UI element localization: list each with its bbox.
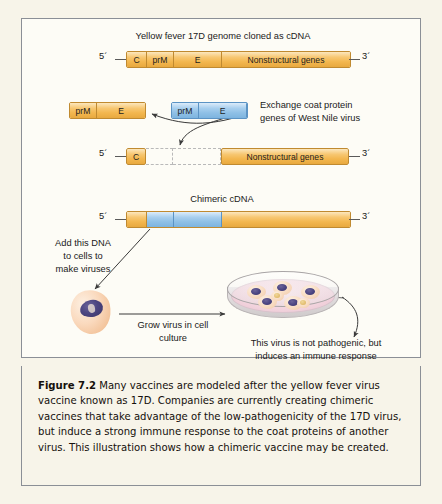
exchange-note-line2: genes of West Nile virus	[260, 112, 360, 124]
dish-cell	[301, 285, 320, 299]
genome-bar: C prM E Nonstructural genes	[126, 51, 351, 68]
dish-cell-nucleus	[262, 298, 272, 305]
top-title: Yellow fever 17D genome cloned as cDNA	[100, 30, 346, 42]
grow-line1: Grow virus in cell	[119, 319, 227, 331]
three-prime-gapped: 3´	[362, 148, 370, 158]
yf-segment-prm: prM	[70, 103, 97, 118]
gapped-segment-nonstructural: Nonstructural genes	[221, 148, 349, 165]
transfected-cell	[69, 287, 115, 337]
add-dna-line3: make viruses	[29, 263, 137, 275]
five-prime-tick-genome	[115, 59, 126, 60]
arrow-dish-callout	[342, 297, 358, 337]
wn-segment-prm: prM	[172, 103, 199, 118]
gapped-segment-deleted-e	[173, 148, 221, 165]
dish-cell-nucleus	[277, 284, 287, 291]
wn-fragment-bar: prM E	[171, 102, 248, 119]
three-prime-genome: 3´	[362, 51, 370, 61]
add-dna-line1: Add this DNA	[29, 237, 137, 249]
chimeric-segment-prm	[147, 212, 174, 227]
five-prime-chimeric: 5´	[99, 211, 107, 221]
five-prime-gapped: 5´	[99, 148, 107, 158]
five-prime-tick-chimeric	[115, 219, 126, 220]
diagram-panel: Yellow fever 17D genome cloned as cDNA 5…	[21, 18, 421, 358]
caption-paragraph: Figure 7.2 Many vaccines are modeled aft…	[38, 378, 404, 455]
dish-cell-nucleus	[305, 288, 315, 295]
wn-segment-e: E	[199, 103, 247, 118]
five-prime-tick-gapped	[115, 156, 126, 157]
yf-fragment-bar: prM E	[69, 102, 146, 119]
five-prime-genome: 5´	[99, 51, 107, 61]
chimeric-segment-nonstructural	[222, 212, 350, 227]
yf-segment-e: E	[97, 103, 145, 118]
segment-prm: prM	[147, 52, 174, 67]
grow-line2: culture	[119, 332, 227, 344]
exchange-note-line1: Exchange coat protein	[260, 99, 353, 111]
dish-cell-inclusion	[300, 300, 306, 305]
segment-nonstructural: Nonstructural genes	[222, 52, 350, 67]
gapped-bar: C Nonstructural genes	[126, 148, 349, 165]
chimeric-segment-e	[174, 212, 222, 227]
three-prime-tick-gapped	[349, 156, 360, 157]
gapped-segment-c: C	[126, 148, 146, 165]
dish-cell-infected	[271, 291, 284, 301]
figure-page: Yellow fever 17D genome cloned as cDNA 5…	[0, 0, 442, 504]
figure-caption: Figure 7.2 Many vaccines are modeled aft…	[21, 366, 421, 486]
outcome-line1: This virus is not pathogenic, but	[218, 337, 414, 349]
petri-dish	[227, 271, 339, 321]
add-dna-line2: to cells to	[29, 250, 137, 262]
segment-c: C	[127, 52, 147, 67]
chimeric-bar	[126, 211, 351, 228]
three-prime-chimeric: 3´	[362, 211, 370, 221]
dish-cell-nucleus	[251, 288, 261, 295]
chimeric-segment-c	[127, 212, 147, 227]
segment-e: E	[174, 52, 222, 67]
three-prime-tick-genome	[349, 59, 360, 60]
dish-cell-inclusion	[274, 293, 280, 298]
three-prime-tick-chimeric	[349, 219, 360, 220]
outcome-line2: induces an immune response	[218, 350, 414, 362]
gapped-segment-deleted-prm	[146, 148, 173, 165]
figure-number: Figure 7.2	[38, 380, 96, 391]
chimeric-title: Chimeric cDNA	[132, 193, 312, 205]
dish-cell-infected	[297, 298, 310, 308]
